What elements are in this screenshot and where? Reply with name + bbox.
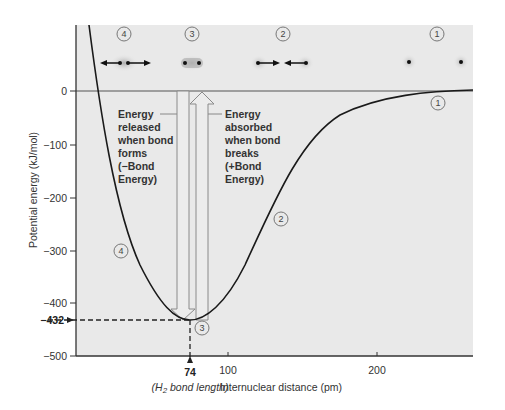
y-ticks — [70, 91, 76, 356]
y-tick-minus-500: −500 — [43, 350, 67, 362]
svg-text:1: 1 — [434, 29, 439, 39]
y-tick-minus-300: −300 — [43, 245, 67, 257]
y-tick-minus-400: −400 — [43, 297, 67, 309]
x-tick-100: 100 — [219, 364, 237, 376]
y-tick-minus-200: −200 — [43, 192, 67, 204]
svg-text:4: 4 — [118, 246, 123, 256]
svg-text:2: 2 — [278, 214, 283, 224]
y-tick-minus-100: −100 — [43, 139, 67, 151]
y-minimum-label: −432 — [40, 314, 64, 326]
svg-text:2: 2 — [280, 29, 285, 39]
y-minimum-arrow-icon — [67, 317, 74, 323]
y-tick-0: 0 — [61, 85, 67, 97]
svg-text:3: 3 — [189, 29, 194, 39]
x-minimum-label: 74 — [184, 366, 196, 378]
x-tick-200: 200 — [368, 364, 386, 376]
svg-text:1: 1 — [435, 98, 440, 108]
plot-area — [76, 25, 473, 356]
bonded-molecule-icon — [178, 55, 206, 71]
svg-text:4: 4 — [121, 29, 126, 39]
bond-length-caption: (H2 bond length) — [152, 381, 229, 395]
x-minimum-arrow-icon — [187, 356, 193, 363]
svg-text:3: 3 — [199, 323, 204, 333]
potential-energy-chart: 0 −100 −200 −300 −400 −500 100 200 Inter… — [0, 0, 505, 410]
y-axis-title: Potential energy (kJ/mol) — [27, 132, 39, 248]
x-axis-title: Internuclear distance (pm) — [220, 381, 342, 393]
